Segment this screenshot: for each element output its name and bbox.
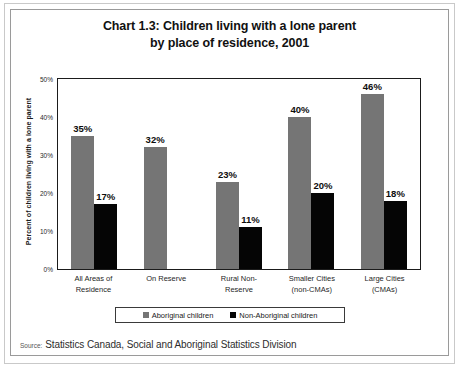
bar-group: 23%11% xyxy=(203,79,275,269)
bar-slot: 17% xyxy=(94,79,117,269)
legend-item[interactable]: Non-Aboriginal children xyxy=(230,311,317,320)
y-tick-label: 40% xyxy=(40,114,53,121)
x-category-line: (non-CMAs) xyxy=(275,285,348,296)
bar[interactable]: 17% xyxy=(94,204,117,269)
x-category-line: Reserve xyxy=(203,285,276,296)
bar-slot: 46% xyxy=(361,79,384,269)
x-category-line: Rural Non- xyxy=(203,274,276,285)
bar-value-label: 18% xyxy=(386,188,405,199)
x-category-label: Rural Non-Reserve xyxy=(203,274,276,295)
bar-value-label: 40% xyxy=(290,104,309,115)
bar-slot: 32% xyxy=(144,79,167,269)
x-category-line: Large Cities xyxy=(348,274,421,285)
bar-groups: 35%17%32%23%11%40%20%46%18% xyxy=(58,79,420,269)
bar-slot: 20% xyxy=(311,79,334,269)
x-category-line: Residence xyxy=(57,285,130,296)
bar[interactable]: 20% xyxy=(311,193,334,269)
bar-slot: 11% xyxy=(239,79,262,269)
title-line-1: Chart 1.3: Children living with a lone p… xyxy=(20,18,439,35)
bar[interactable]: 40% xyxy=(288,117,311,269)
bar-slot: 18% xyxy=(384,79,407,269)
y-tick-label: 20% xyxy=(40,190,53,197)
bar-value-label: 23% xyxy=(218,169,237,180)
x-category-label: Large Cities(CMAs) xyxy=(348,274,421,295)
y-axis-title: Percent of children living with a lone p… xyxy=(25,77,32,267)
x-axis-labels: All Areas ofResidenceOn ReserveRural Non… xyxy=(57,274,421,295)
bar-group: 35%17% xyxy=(58,79,130,269)
x-category-line: Smaller Cities xyxy=(275,274,348,285)
y-tick-label: 50% xyxy=(40,76,53,83)
bar-value-label: 20% xyxy=(313,180,332,191)
chart-legend: Aboriginal childrenNon-Aboriginal childr… xyxy=(115,307,345,323)
legend-swatch-icon xyxy=(143,312,149,318)
title-line-2: by place of residence, 2001 xyxy=(20,35,439,52)
bar-slot: 35% xyxy=(71,79,94,269)
bar-value-label: 32% xyxy=(146,134,165,145)
bar[interactable]: 11% xyxy=(239,227,262,269)
chart-page: Chart 1.3: Children living with a lone p… xyxy=(0,0,459,368)
y-tick-label: 0% xyxy=(44,266,53,273)
source-text: Statistics Canada, Social and Aboriginal… xyxy=(45,339,296,350)
source-label: Source: xyxy=(20,342,42,349)
bar[interactable]: 35% xyxy=(71,136,94,269)
y-tick-label: 10% xyxy=(40,228,53,235)
x-category-label: On Reserve xyxy=(130,274,203,295)
bar[interactable]: 23% xyxy=(216,182,239,269)
bar-value-label: 46% xyxy=(363,81,382,92)
bar-value-label: 35% xyxy=(73,123,92,134)
plot-area: 0%10%20%30%40%50% 35%17%32%23%11%40%20%4… xyxy=(57,78,421,270)
page-title: Chart 1.3: Children living with a lone p… xyxy=(20,18,439,52)
x-category-line: (CMAs) xyxy=(348,285,421,296)
bar-slot: 23% xyxy=(216,79,239,269)
legend-label: Non-Aboriginal children xyxy=(239,311,317,320)
bar-group: 32% xyxy=(130,79,202,269)
legend-label: Aboriginal children xyxy=(152,311,214,320)
bar[interactable]: 18% xyxy=(384,201,407,269)
plot-inner: 0%10%20%30%40%50% 35%17%32%23%11%40%20%4… xyxy=(58,79,420,269)
bar[interactable]: 46% xyxy=(361,94,384,269)
x-category-line: On Reserve xyxy=(130,274,203,285)
x-category-label: Smaller Cities(non-CMAs) xyxy=(275,274,348,295)
bar-group: 46%18% xyxy=(348,79,420,269)
bar[interactable]: 32% xyxy=(144,147,167,269)
bar-slot: 40% xyxy=(288,79,311,269)
x-category-label: All Areas ofResidence xyxy=(57,274,130,295)
legend-swatch-icon xyxy=(230,312,236,318)
bar-group: 40%20% xyxy=(275,79,347,269)
source-note: Source: Statistics Canada, Social and Ab… xyxy=(20,339,297,350)
legend-item[interactable]: Aboriginal children xyxy=(143,311,214,320)
bar-value-label: 17% xyxy=(96,191,115,202)
y-tick-label: 30% xyxy=(40,152,53,159)
x-category-line: All Areas of xyxy=(57,274,130,285)
bar-slot xyxy=(167,79,190,269)
bar-value-label: 11% xyxy=(241,214,260,225)
